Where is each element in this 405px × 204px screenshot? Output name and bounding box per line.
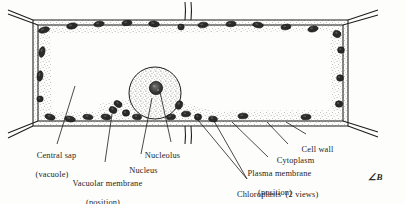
plant-cell-diagram: Central sap (vacuole) Vacuolar membrane … <box>0 0 405 204</box>
chloroplast-highlight <box>338 76 340 78</box>
chloroplast <box>208 116 217 122</box>
chloroplast <box>122 110 129 116</box>
chloroplast <box>194 114 201 120</box>
chloroplast <box>178 24 184 30</box>
chloroplast <box>238 113 248 119</box>
artist-signature: ∠B <box>368 172 383 182</box>
chloroplast <box>37 96 43 102</box>
chloroplast-highlight <box>124 111 126 113</box>
chloroplast <box>226 21 236 27</box>
nucleolus-shape <box>149 81 162 94</box>
chloroplast-highlight <box>339 48 341 50</box>
label-cell-wall: Cell wall <box>280 135 346 164</box>
chloroplast <box>132 114 142 120</box>
chloroplast <box>181 111 191 117</box>
cytoplasm-region <box>33 20 348 126</box>
chloroplast-highlight <box>38 97 40 99</box>
chloroplast <box>337 75 344 81</box>
chloroplast-highlight <box>337 102 339 104</box>
chloroplast <box>301 114 311 120</box>
nucleus-shape <box>129 67 181 119</box>
chloroplast <box>338 47 345 53</box>
label-nucleolus: Nucleolus <box>122 141 194 170</box>
chloroplast-highlight <box>179 25 181 27</box>
chloroplast <box>335 101 342 107</box>
chloroplast-highlight <box>196 115 198 117</box>
